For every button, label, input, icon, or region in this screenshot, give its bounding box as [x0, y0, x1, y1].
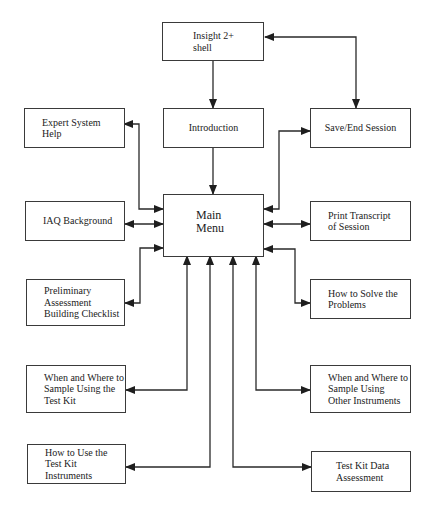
edge-expert-main: [124, 124, 163, 209]
edge-save-main: [264, 131, 310, 209]
node-preliminary-assessment: Preliminary Assessment Building Checklis…: [26, 279, 125, 326]
edge-shell-save: [265, 37, 356, 108]
node-when-where-other-instruments: When and Where to Sample Using Other Ins…: [310, 365, 411, 413]
node-label: IAQ Background: [26, 215, 112, 227]
node-label: When and Where to Sample Using Other Ins…: [311, 372, 408, 407]
node-label: When and Where to Sample Using the Test …: [27, 372, 124, 407]
node-label: Main Menu: [164, 195, 224, 235]
node-insight-shell: Insight 2+ shell: [162, 22, 264, 61]
edge-preliminary-main: [125, 248, 163, 303]
node-main-menu: Main Menu: [163, 194, 264, 257]
edge-testkitdata-main: [233, 256, 311, 467]
node-iaq-background: IAQ Background: [25, 201, 125, 241]
node-label: How to Use the Test Kit Instruments: [28, 447, 108, 482]
node-label: Print Transcript of Session: [311, 210, 391, 233]
node-expert-system-help: Expert System Help: [24, 108, 125, 148]
edge-whenwhere-other-main: [256, 256, 310, 390]
node-label: How to Solve the Problems: [311, 288, 398, 311]
node-print-transcript: Print Transcript of Session: [310, 201, 411, 241]
node-label: Test Kit Data Assessment: [312, 460, 389, 483]
node-label: Insight 2+ shell: [163, 30, 234, 53]
edge-solve-main: [264, 249, 310, 303]
node-how-to-solve: How to Solve the Problems: [310, 279, 411, 319]
node-how-to-use-test-kit: How to Use the Test Kit Instruments: [27, 444, 126, 484]
node-label: Introduction: [164, 122, 263, 134]
node-save-end-session: Save/End Session: [310, 108, 411, 148]
diagram-canvas: Insight 2+ shell Introduction Save/End S…: [0, 0, 435, 507]
node-introduction: Introduction: [163, 108, 264, 148]
node-label: Preliminary Assessment Building Checklis…: [27, 285, 119, 320]
node-label: Save/End Session: [311, 122, 410, 134]
edge-whenwhere-testkit-main: [126, 256, 187, 390]
node-when-where-test-kit: When and Where to Sample Using the Test …: [26, 365, 126, 413]
node-label: Expert System Help: [25, 117, 101, 140]
edge-howtouse-main: [126, 256, 210, 467]
node-test-kit-data-assessment: Test Kit Data Assessment: [311, 451, 411, 492]
